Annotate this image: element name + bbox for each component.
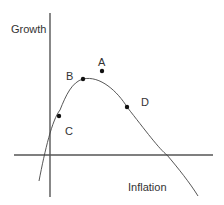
point-b-label: B [66,70,73,82]
point-d [125,105,129,109]
y-axis-label: Growth [11,23,46,35]
point-d-label: D [141,96,149,108]
x-axis-label: Inflation [128,181,167,193]
point-c [57,114,61,118]
point-b [81,77,85,81]
growth-inflation-diagram: Growth Inflation A B C D [0,0,224,205]
point-a-label: A [98,56,106,68]
point-a [100,69,104,73]
point-c-label: C [65,125,73,137]
growth-inflation-curve [39,78,198,196]
